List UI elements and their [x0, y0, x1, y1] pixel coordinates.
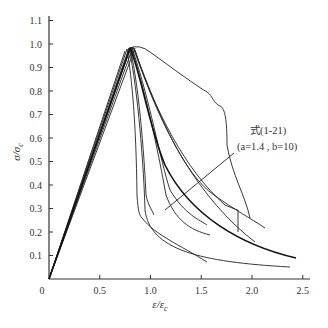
- experimental-curves: [49, 47, 296, 279]
- y-tick-label: 0.8: [30, 86, 43, 97]
- curve-test-1: [129, 47, 250, 218]
- annotation-formula-label: 式(1-21): [250, 124, 287, 137]
- y-tick-label: 1.1: [30, 15, 43, 26]
- y-tick-label: 0.1: [30, 250, 43, 261]
- x-tick-label: 0: [40, 285, 45, 296]
- annotation-params-label: (a=1.4 , b=10): [237, 141, 298, 153]
- x-axis-label: ε/εc: [152, 298, 168, 313]
- curve-ascending: [49, 48, 130, 279]
- x-tick-label: 0.5: [94, 285, 107, 296]
- y-tick-label: 0.6: [30, 133, 43, 144]
- y-tick-label: 0.3: [30, 203, 43, 214]
- y-tick-label: 0.9: [30, 62, 43, 73]
- y-tick-label: 0.7: [30, 109, 43, 120]
- x-tick-label: 2.5: [297, 285, 310, 296]
- y-tick-label: 1.0: [30, 39, 43, 50]
- x-tick-label: 1.5: [195, 285, 208, 296]
- curve-test-3: [129, 48, 290, 267]
- y-axis-label: σ/σc: [10, 143, 25, 161]
- y-axis-label-main: σ/σc: [10, 143, 25, 161]
- curve-formula-1-21: [130, 48, 296, 258]
- y-tick-label: 0.5: [30, 156, 43, 167]
- y-tick-label: 0.2: [30, 227, 43, 238]
- x-axis-ticks: 00.51.01.52.02.5: [40, 275, 310, 296]
- x-tick-label: 1.0: [144, 285, 157, 296]
- y-tick-label: 0.4: [30, 180, 43, 191]
- x-tick-label: 2.0: [246, 285, 259, 296]
- stress-strain-chart: 0.10.20.30.40.50.60.70.80.91.01.1 00.51.…: [0, 0, 328, 328]
